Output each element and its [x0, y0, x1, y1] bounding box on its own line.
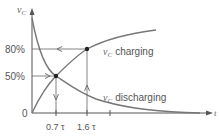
x-tick-07tau: 0.7 τ — [46, 122, 65, 132]
charging-label: vCcharging — [103, 46, 153, 59]
point-50 — [54, 74, 58, 78]
x-tick-16tau: 1.6 τ — [77, 122, 96, 132]
y-tick-80: 80% — [5, 44, 25, 55]
x-axis-arrow-icon — [206, 111, 213, 116]
y-axis-arrow-icon — [30, 8, 35, 15]
point-80 — [85, 47, 89, 51]
x-axis-label: t — [214, 108, 217, 118]
y-axis-label: vC — [17, 4, 26, 17]
rc-charge-discharge-diagram: vC t 80% 50% 0 0.7 τ 1.6 τ vCcharging vC… — [0, 0, 219, 137]
y-tick-0: 0 — [22, 108, 28, 119]
y-tick-50: 50% — [5, 71, 25, 82]
